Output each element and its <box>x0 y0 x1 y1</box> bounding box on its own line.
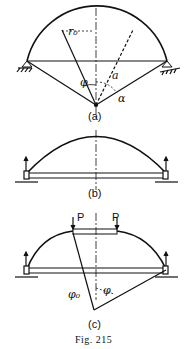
arch-left-c <box>27 231 73 269</box>
tie-beam-c <box>27 268 166 273</box>
panel-label-a: (a) <box>88 110 101 122</box>
tie-beam-b <box>27 173 166 178</box>
top-beam-c <box>73 229 117 234</box>
arch-right-c <box>117 231 166 269</box>
label-phi-a: φ <box>80 76 88 89</box>
panel-b <box>15 130 178 190</box>
panel-label-b: (b) <box>88 187 101 199</box>
label-phi0: φ₀ <box>68 288 81 301</box>
load-label-right: P <box>112 211 119 223</box>
alpha-arc <box>96 82 116 92</box>
panel-a <box>17 6 180 120</box>
arch-curve-a <box>27 6 167 61</box>
panel-c <box>15 213 178 310</box>
load-label-left: P <box>77 211 84 223</box>
label-alpha: α <box>118 92 126 105</box>
figure-215: r₀ φ a α (a) (b) P P φ₀ φ (c) Fig. 215 <box>0 0 195 349</box>
arch-curve-b <box>27 137 166 174</box>
label-phi-c: φ <box>103 284 111 297</box>
radius-right-a <box>96 61 167 105</box>
panel-label-c: (c) <box>88 318 101 330</box>
label-a: a <box>112 69 119 82</box>
figure-caption: Fig. 215 <box>75 334 112 345</box>
label-r0: r₀ <box>68 25 78 38</box>
